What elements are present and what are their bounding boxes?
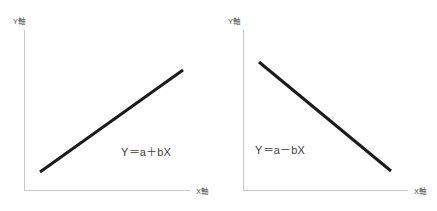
chart-plot-positive-slope <box>0 0 218 211</box>
chart-panel-positive-slope: Y軸 X軸 Y＝a＋bX <box>0 0 218 211</box>
y-axis-label: Y軸 <box>228 17 240 27</box>
figure-canvas: Y軸 X軸 Y＝a＋bX Y軸 X軸 Y＝a－bX <box>0 0 437 211</box>
x-axis-label: X軸 <box>414 187 426 197</box>
x-axis-label: X軸 <box>196 187 208 197</box>
equation-annotation-negative: Y＝a－bX <box>255 143 305 157</box>
chart-plot-negative-slope <box>219 0 437 211</box>
equation-annotation-positive: Y＝a＋bX <box>121 145 171 159</box>
y-axis-label: Y軸 <box>13 17 25 27</box>
chart-panel-negative-slope: Y軸 X軸 Y＝a－bX <box>219 0 437 211</box>
